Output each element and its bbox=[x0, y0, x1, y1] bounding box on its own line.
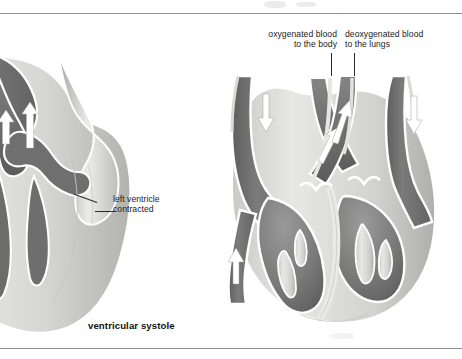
left-heart-illustration bbox=[0, 46, 130, 332]
figure-caption: ventricular systole bbox=[88, 320, 175, 331]
leader-line-oxygenated bbox=[331, 53, 332, 76]
figure-page: oxygenated blood to the body deoxygenate… bbox=[0, 0, 462, 359]
leader-line-left-ventricle-horizontal bbox=[95, 211, 115, 212]
bottom-rule bbox=[0, 348, 462, 349]
label-deoxygenated-blood: deoxygenated blood to the lungs bbox=[345, 29, 457, 50]
heart-diagram-artwork bbox=[0, 14, 462, 348]
leader-line-deoxygenated bbox=[354, 53, 355, 76]
right-heart-illustration bbox=[228, 76, 435, 323]
scan-artifact bbox=[264, 1, 286, 8]
label-oxygenated-blood: oxygenated blood to the body bbox=[233, 29, 337, 50]
scan-artifact bbox=[296, 2, 316, 7]
label-left-ventricle-contracted: left ventricle contracted bbox=[113, 194, 205, 215]
